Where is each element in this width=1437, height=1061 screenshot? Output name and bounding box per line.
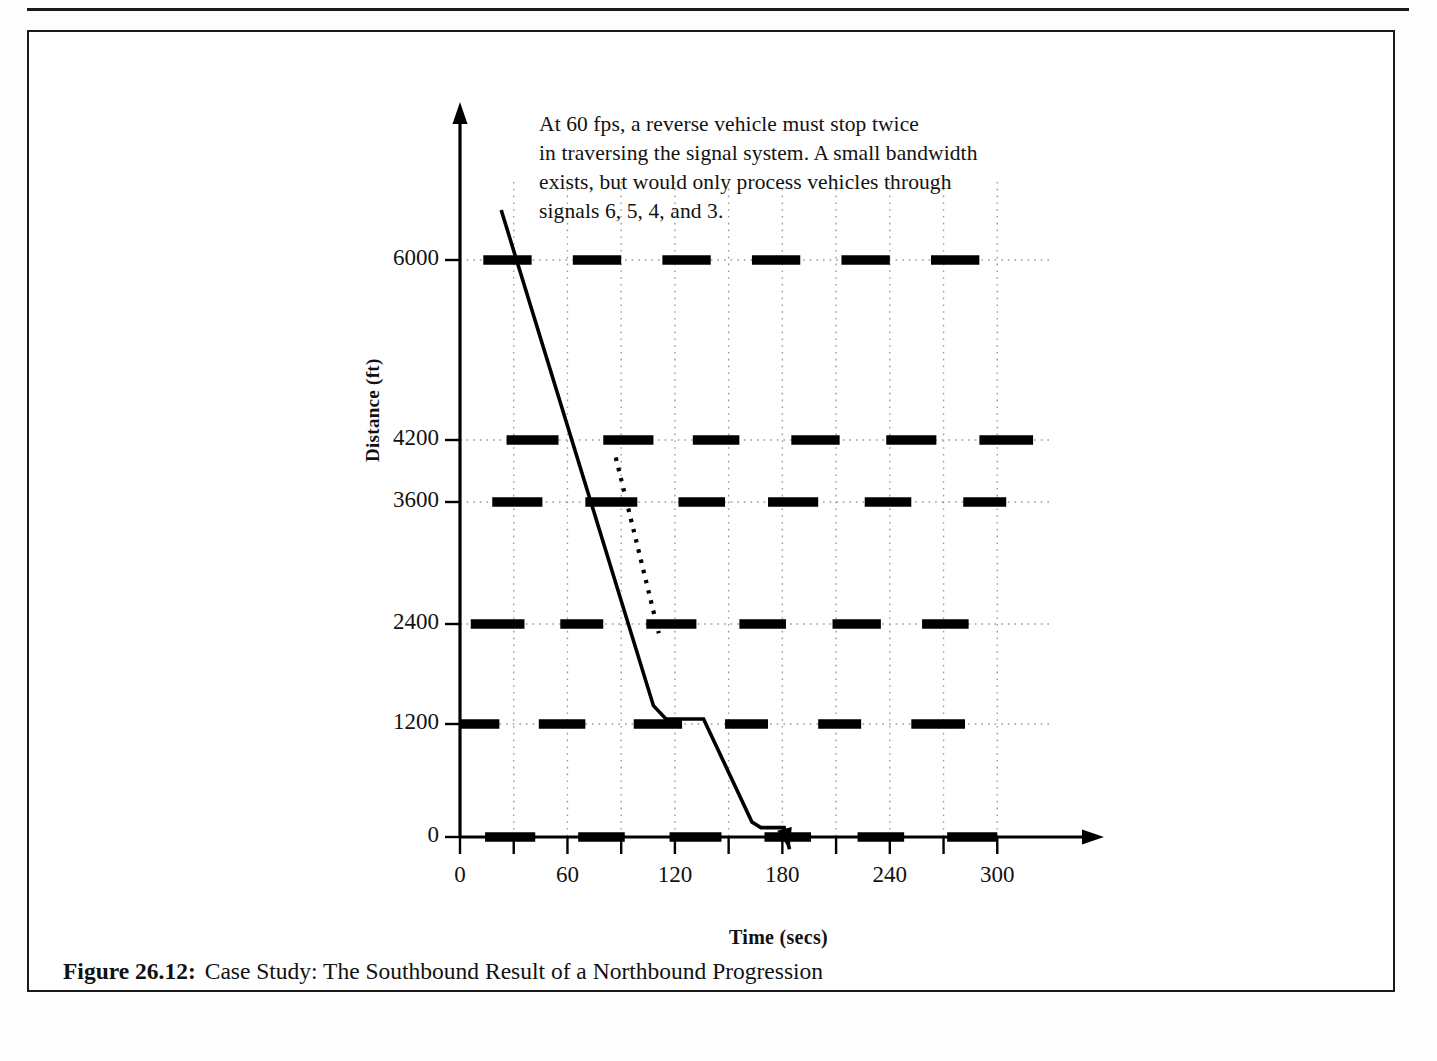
vehicle-trajectory <box>501 210 792 849</box>
gridlines-group <box>460 182 1051 837</box>
y-axis-arrowhead <box>453 102 468 124</box>
y-tick-label: 2400 <box>339 609 439 635</box>
page-top-rule <box>27 8 1409 11</box>
figure-caption-number: Figure 26.12: <box>63 958 196 984</box>
x-tick-label: 0 <box>420 862 500 888</box>
annotation-line-4: signals 6, 5, 4, and 3. <box>539 197 1039 226</box>
y-tick-label: 3600 <box>339 487 439 513</box>
signal-bars-group <box>460 260 1033 837</box>
x-tick-label: 60 <box>527 862 607 888</box>
y-tick-label: 1200 <box>339 709 439 735</box>
x-tick-label: 300 <box>957 862 1037 888</box>
annotation-line-2: in traversing the signal system. A small… <box>539 139 1039 168</box>
x-tick-label: 120 <box>635 862 715 888</box>
x-tick-label: 240 <box>850 862 930 888</box>
figure-frame: At 60 fps, a reverse vehicle must stop t… <box>27 30 1395 992</box>
x-axis-title: Time (secs) <box>729 926 828 949</box>
annotation-note: At 60 fps, a reverse vehicle must stop t… <box>539 110 1039 226</box>
x-axis-arrowhead <box>1082 830 1104 845</box>
y-tick-label: 0 <box>339 822 439 848</box>
figure-caption: Figure 26.12:Case Study: The Southbound … <box>63 958 823 985</box>
annotation-line-1: At 60 fps, a reverse vehicle must stop t… <box>539 110 1039 139</box>
page-canvas: At 60 fps, a reverse vehicle must stop t… <box>0 0 1437 1061</box>
annotation-line-3: exists, but would only process vehicles … <box>539 168 1039 197</box>
y-tick-label: 6000 <box>339 245 439 271</box>
figure-caption-text: Case Study: The Southbound Result of a N… <box>205 958 823 984</box>
x-tick-label: 180 <box>742 862 822 888</box>
y-tick-label: 4200 <box>339 425 439 451</box>
trajectory-line <box>501 210 789 849</box>
